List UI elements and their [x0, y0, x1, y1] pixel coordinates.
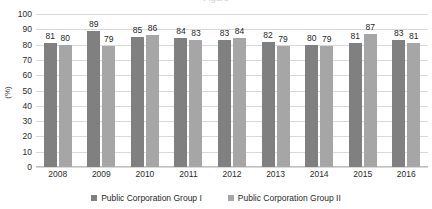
y-axis-tick-label: 90	[23, 24, 32, 34]
bar-value-label: 86	[148, 23, 157, 33]
bar-value-label: 81	[46, 31, 55, 41]
bar[interactable]: 89	[87, 31, 100, 167]
bar-value-label: 83	[220, 28, 229, 38]
bar-group: 8483	[167, 14, 211, 167]
bar-group: 8979	[80, 14, 124, 167]
chart-title-text: Figure	[0, 0, 432, 3]
legend-label: Public Corporation Group I	[101, 193, 202, 203]
bar-value-label: 84	[235, 26, 244, 36]
bar-group: 8180	[36, 14, 80, 167]
bar[interactable]: 81	[44, 43, 57, 167]
bar-value-label: 82	[263, 30, 272, 40]
y-axis-unit-label: (%)	[3, 86, 12, 98]
y-axis-tick-label: 40	[23, 101, 32, 111]
legend-item[interactable]: Public Corporation Group I	[91, 193, 202, 203]
y-axis-tick-label: 100	[18, 9, 32, 19]
bar-group: 8279	[254, 14, 298, 167]
y-axis-tick-label: 30	[23, 116, 32, 126]
bar[interactable]: 80	[305, 45, 318, 167]
bar[interactable]: 83	[218, 40, 231, 167]
bar[interactable]: 84	[174, 38, 187, 167]
bar-value-label: 81	[350, 31, 359, 41]
bar[interactable]: 80	[59, 45, 72, 167]
bar-value-label: 85	[133, 25, 142, 35]
bar-value-label: 84	[176, 26, 185, 36]
bar[interactable]: 79	[320, 46, 333, 167]
bar[interactable]: 87	[364, 34, 377, 167]
x-axis-tick-label: 2015	[341, 169, 385, 179]
legend-item[interactable]: Public Corporation Group II	[228, 193, 341, 203]
bar-value-label: 79	[104, 34, 113, 44]
bar-value-label: 87	[365, 22, 374, 32]
chart-title-clipped: Figure	[0, 0, 432, 7]
bar[interactable]: 83	[189, 40, 202, 167]
x-axis-tick-label: 2010	[123, 169, 167, 179]
plot-area: 1009080706050403020100 81808979858684838…	[36, 14, 428, 167]
y-axis-tick-label: 60	[23, 70, 32, 80]
y-axis-tick-label: 20	[23, 131, 32, 141]
bar[interactable]: 86	[146, 35, 159, 167]
chart-legend: Public Corporation Group IPublic Corpora…	[0, 193, 432, 203]
x-axis-tick-label: 2008	[36, 169, 80, 179]
x-axis-tick-label: 2012	[210, 169, 254, 179]
bar[interactable]: 85	[131, 37, 144, 167]
bar[interactable]: 79	[102, 46, 115, 167]
y-axis-tick-label: 10	[23, 147, 32, 157]
bar-group: 8079	[297, 14, 341, 167]
bar-value-label: 79	[278, 34, 287, 44]
bar-value-label: 79	[322, 34, 331, 44]
y-axis-tick-label: 70	[23, 55, 32, 65]
x-axis-tick-label: 2016	[385, 169, 429, 179]
gridline: 0	[36, 167, 428, 168]
bar[interactable]: 83	[392, 40, 405, 167]
legend-label: Public Corporation Group II	[238, 193, 341, 203]
bar[interactable]: 79	[277, 46, 290, 167]
bar-value-label: 89	[89, 19, 98, 29]
x-axis-tick-label: 2009	[80, 169, 124, 179]
bar-group: 8384	[210, 14, 254, 167]
bar-chart: Figure (%) 1009080706050403020100 818089…	[0, 0, 432, 209]
x-axis-labels: 200820092010201120122013201420152016	[36, 169, 428, 179]
x-axis-tick-label: 2011	[167, 169, 211, 179]
bar-value-label: 80	[61, 33, 70, 43]
y-axis-tick-label: 0	[27, 162, 32, 172]
x-axis-tick-label: 2014	[297, 169, 341, 179]
bar-group: 8381	[385, 14, 429, 167]
bar-group: 8586	[123, 14, 167, 167]
bar-group: 8187	[341, 14, 385, 167]
y-axis-tick-label: 80	[23, 40, 32, 50]
y-axis-tick-label: 50	[23, 86, 32, 96]
x-axis-tick-label: 2013	[254, 169, 298, 179]
bar-value-label: 83	[394, 28, 403, 38]
legend-swatch-icon	[228, 195, 234, 201]
legend-swatch-icon	[91, 195, 97, 201]
bar-value-label: 83	[191, 28, 200, 38]
bar[interactable]: 84	[233, 38, 246, 167]
bar[interactable]: 81	[349, 43, 362, 167]
bar[interactable]: 82	[262, 42, 275, 167]
bar-value-label: 81	[409, 31, 418, 41]
bar-value-label: 80	[307, 33, 316, 43]
bar[interactable]: 81	[407, 43, 420, 167]
bar-groups: 818089798586848383848279807981878381	[36, 14, 428, 167]
